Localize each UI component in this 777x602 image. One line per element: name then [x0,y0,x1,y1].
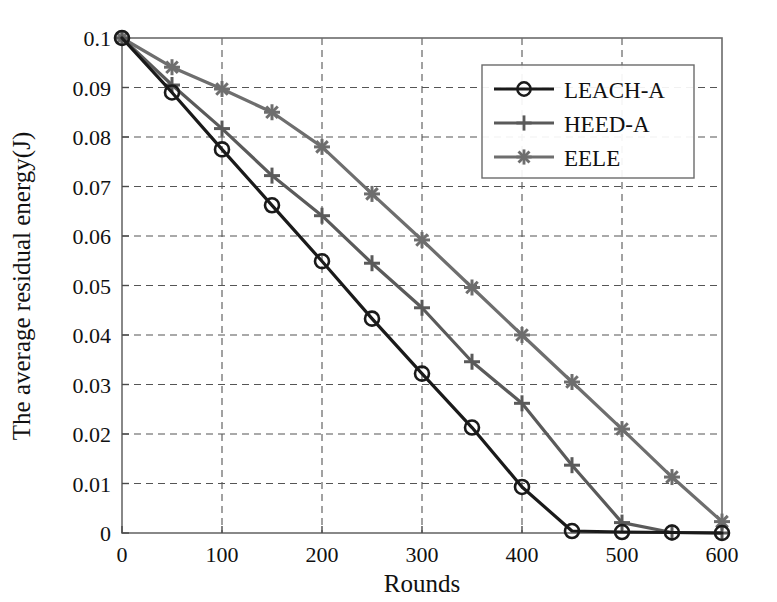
y-tick-label: 0.09 [73,76,112,101]
y-tick-label: 0.01 [73,472,112,497]
chart-figure: 0100200300400500600 00.010.020.030.040.0… [0,0,777,602]
data-point-marker [514,327,530,343]
legend: LEACH-AHEED-AEELE [482,65,694,178]
x-axis-label: Rounds [384,570,460,597]
x-tick-label: 500 [606,542,639,567]
data-point-marker [516,149,531,164]
y-tick-label: 0.07 [73,175,112,200]
data-point-marker [664,469,680,485]
y-tick-label: 0.02 [73,422,112,447]
y-tick-label: 0.03 [73,373,112,398]
x-tick-labels: 0100200300400500600 [117,542,739,567]
data-point-marker [164,59,180,75]
data-point-marker [464,279,480,295]
x-tick-label: 400 [506,542,539,567]
data-point-marker [214,81,230,97]
y-tick-label: 0.05 [73,274,112,299]
data-point-marker [314,139,330,155]
x-tick-label: 0 [117,542,128,567]
data-point-marker [364,186,380,202]
legend-label: EELE [564,146,620,171]
data-point-marker [564,374,580,390]
data-point-marker [414,232,430,248]
data-point-marker [264,104,280,120]
y-tick-labels: 00.010.020.030.040.050.060.070.080.090.1 [73,26,112,546]
x-tick-label: 100 [206,542,239,567]
legend-label: LEACH-A [564,78,665,103]
y-tick-label: 0.08 [73,125,112,150]
legend-label: HEED-A [564,112,650,137]
y-tick-label: 0.04 [73,323,112,348]
y-tick-label: 0.06 [73,224,112,249]
x-tick-label: 600 [706,542,739,567]
x-tick-label: 200 [306,542,339,567]
line-chart-svg: 0100200300400500600 00.010.020.030.040.0… [0,0,777,602]
x-tick-label: 300 [406,542,439,567]
y-tick-label: 0 [100,521,111,546]
y-axis-label: The average residual energy(J) [8,132,36,440]
data-point-marker [614,421,630,437]
y-tick-label: 0.1 [84,26,112,51]
